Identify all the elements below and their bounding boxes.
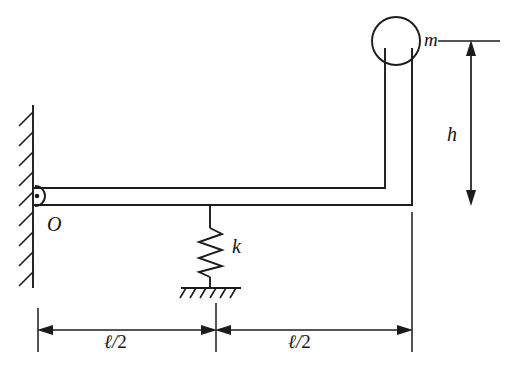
dimension-arrow-right-inner: [215, 325, 231, 335]
length-denominator-left: 2: [117, 331, 127, 352]
length-symbol-left: ℓ: [104, 330, 112, 352]
pin-support: [35, 186, 45, 206]
pivot-center-dot: [35, 194, 40, 199]
mechanics-figure: m h k O ℓ/2 ℓ/2: [0, 0, 512, 367]
wall-hatch-marks: [19, 112, 33, 286]
length-denominator-right: 2: [301, 331, 311, 352]
mass-label: m: [424, 30, 438, 49]
spring-constant-label: k: [232, 236, 241, 256]
h-arrowhead-down: [466, 190, 476, 206]
pivot-label: O: [47, 214, 61, 234]
length-dimension-group: [37, 212, 413, 352]
dimension-arrow-left-outer: [37, 325, 53, 335]
bar-inner-outline: [33, 48, 385, 188]
bent-rigid-bar: [33, 48, 412, 205]
length-label-left: ℓ/2: [104, 332, 127, 351]
bar-outer-outline: [33, 48, 412, 205]
diagram-canvas: [0, 0, 512, 367]
dimension-arrow-left-inner: [201, 325, 217, 335]
tip-mass-circle: [372, 17, 420, 65]
dimension-arrow-right-outer: [397, 325, 413, 335]
height-label: h: [447, 124, 457, 144]
coil-spring: [199, 205, 222, 288]
h-arrowhead-up: [466, 40, 476, 56]
ground-hatch-marks: [180, 288, 236, 298]
length-symbol-right: ℓ: [288, 330, 296, 352]
spring-coils: [199, 228, 222, 277]
spring-ground-support: [180, 288, 241, 298]
length-label-right: ℓ/2: [288, 332, 311, 351]
fixed-wall: [19, 105, 33, 288]
